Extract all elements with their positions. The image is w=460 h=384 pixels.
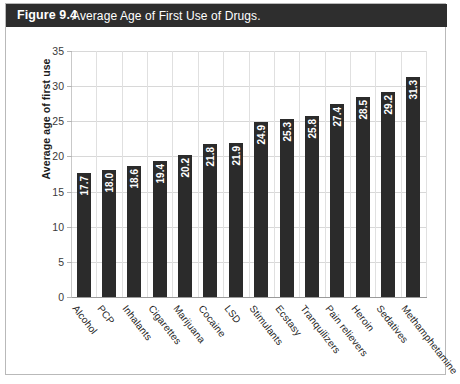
- bar-value-label: 27.4: [332, 107, 343, 126]
- bar-value-label: 25.3: [281, 122, 292, 141]
- y-tick-mark: [67, 227, 72, 228]
- gridline-vertical: [299, 51, 300, 297]
- bar: 25.8: [305, 116, 319, 297]
- y-tick-mark: [67, 156, 72, 157]
- bar: 24.9: [254, 122, 268, 297]
- y-tick-label: 10: [36, 222, 64, 232]
- gridline-vertical: [223, 51, 224, 297]
- bar: 19.4: [153, 161, 167, 297]
- bar-value-label: 17.7: [78, 176, 89, 195]
- x-category-label: LSD: [222, 303, 243, 325]
- bar-value-label: 29.2: [382, 95, 393, 114]
- gridline-vertical: [375, 51, 376, 297]
- chart-plot-area: 17.718.018.619.420.221.821.924.925.325.8…: [71, 51, 426, 297]
- bar-value-label: 31.3: [408, 80, 419, 99]
- gridline-vertical: [274, 51, 275, 297]
- y-tick-label: 0: [36, 292, 64, 302]
- bar-value-label: 24.9: [256, 125, 267, 144]
- bar: 28.5: [356, 97, 370, 297]
- y-tick-mark: [67, 192, 72, 193]
- y-tick-label: 15: [36, 187, 64, 197]
- bar-value-label: 18.6: [129, 169, 140, 188]
- bar-value-label: 28.5: [357, 100, 368, 119]
- y-tick-label: 35: [36, 46, 64, 56]
- bar-value-label: 19.4: [154, 164, 165, 183]
- bar-value-label: 21.9: [230, 146, 241, 165]
- gridline-vertical: [426, 51, 427, 297]
- y-tick-label: 30: [36, 81, 64, 91]
- y-tick-mark: [67, 121, 72, 122]
- y-tick-label: 5: [36, 257, 64, 267]
- x-category-label: PCP: [95, 303, 117, 326]
- bar-value-label: 18.0: [104, 173, 115, 192]
- gridline-vertical: [325, 51, 326, 297]
- bar: 27.4: [330, 104, 344, 297]
- gridline-vertical: [350, 51, 351, 297]
- bar: 18.0: [102, 170, 116, 297]
- y-tick-mark: [67, 262, 72, 263]
- bar: 31.3: [406, 77, 420, 297]
- bar: 21.9: [229, 143, 243, 297]
- bar-value-label: 21.8: [205, 147, 216, 166]
- chart-plot-wrapper: Average age of first use 17.718.018.619.…: [6, 27, 447, 376]
- bar: 21.8: [203, 144, 217, 297]
- bar: 29.2: [381, 92, 395, 297]
- y-tick-label: 20: [36, 151, 64, 161]
- gridline-vertical: [172, 51, 173, 297]
- figure-caption: Average Age of First Use of Drugs.: [72, 9, 261, 23]
- gridline-vertical: [122, 51, 123, 297]
- gridline-vertical: [249, 51, 250, 297]
- y-tick-mark: [67, 86, 72, 87]
- bar: 20.2: [178, 155, 192, 297]
- x-axis-line: [71, 297, 427, 298]
- y-tick-mark: [67, 51, 72, 52]
- y-tick-label: 25: [36, 116, 64, 126]
- gridline-vertical: [147, 51, 148, 297]
- bar: 17.7: [77, 173, 91, 297]
- figure-container: Figure 9.4 Average Age of First Use of D…: [5, 3, 446, 375]
- gridline-vertical: [96, 51, 97, 297]
- figure-title-banner: Figure 9.4 Average Age of First Use of D…: [6, 4, 447, 27]
- y-tick-mark: [67, 297, 72, 298]
- bar-value-label: 25.8: [306, 119, 317, 138]
- bar: 25.3: [280, 119, 294, 297]
- gridline-vertical: [401, 51, 402, 297]
- bar-value-label: 20.2: [180, 158, 191, 177]
- x-category-label: Alcohol: [70, 303, 99, 336]
- bar: 18.6: [127, 166, 141, 297]
- gridline-vertical: [198, 51, 199, 297]
- figure-number: Figure 9.4: [17, 8, 77, 22]
